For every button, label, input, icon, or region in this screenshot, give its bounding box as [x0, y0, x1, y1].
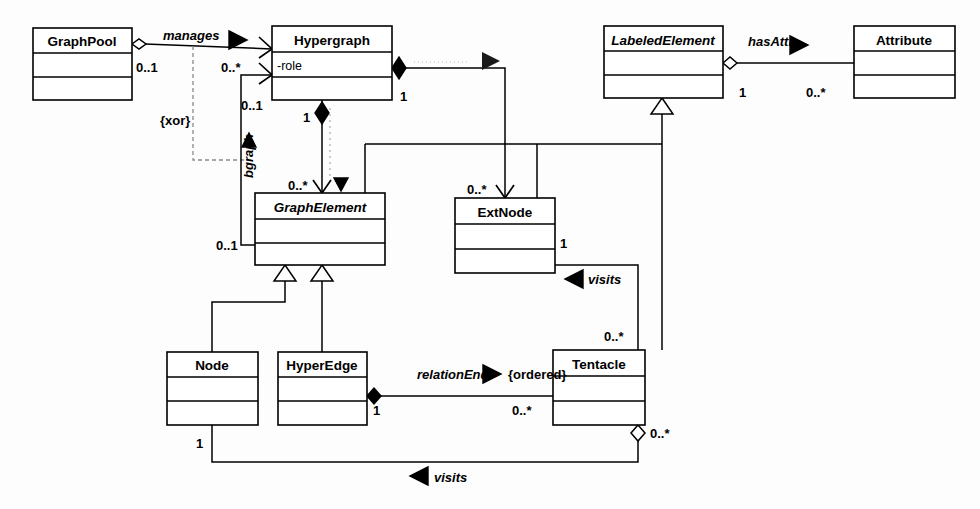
assoc-label-visits-node: visits [434, 470, 467, 485]
association-hypergraph-graphelement[interactable] [313, 100, 348, 193]
open-arrow-icon [259, 37, 272, 58]
class-name-hyperedge: HyperEdge [286, 358, 358, 373]
class-name-node: Node [195, 358, 229, 373]
class-name-hypergraph: Hypergraph [294, 33, 370, 48]
class-attribute-role: -role [277, 59, 302, 73]
constraint-label-ordered: {ordered} [508, 367, 567, 382]
class-name-graphelement: GraphElement [274, 200, 367, 215]
manages-line [145, 44, 272, 49]
constraint-label-xor: {xor} [160, 113, 190, 128]
mult-hyperedge-relationend: 1 [373, 403, 380, 418]
mult-hypergraph-bgraph: 0..1 [241, 98, 263, 113]
assoc-label-visits-extnode: visits [588, 272, 621, 287]
navigation-triangle-icon [565, 270, 583, 288]
generalization-to-graphelement[interactable] [212, 265, 333, 352]
class-box-graphpool[interactable]: GraphPool [33, 28, 132, 100]
mult-hypergraph-ge: 1 [303, 110, 310, 125]
class-name-labeledelement: LabeledElement [611, 33, 715, 48]
aggregation-diamond-icon [631, 425, 645, 441]
class-box-graphelement[interactable]: GraphElement [255, 193, 385, 265]
class-box-hyperedge[interactable]: HyperEdge [278, 352, 367, 425]
class-name-tentacle: Tentacle [572, 357, 626, 372]
generalization-triangle-icon [274, 265, 296, 281]
assoc-label-manages: manages [163, 28, 219, 43]
mult-graphpool-manages: 0..1 [136, 60, 158, 75]
association-hypergraph-extnode[interactable] [392, 52, 514, 198]
class-box-extnode[interactable]: ExtNode [455, 198, 555, 273]
aggregation-diamond-icon [132, 39, 146, 49]
mult-extnode-visits: 1 [560, 236, 567, 251]
assoc-label-bgraph: bgraph [241, 134, 256, 178]
association-node-visits-tentacle[interactable] [212, 425, 645, 485]
assoc-label-hasattr: hasAttr [748, 34, 794, 49]
class-name-extnode: ExtNode [478, 205, 533, 220]
generalization-triangle-icon [311, 265, 333, 281]
class-name-graphpool: GraphPool [47, 34, 116, 49]
node-visits-line [212, 425, 638, 462]
assoc-label-relationend: relationEnd [417, 367, 490, 382]
navigation-triangle-icon [410, 467, 428, 485]
mult-labeledelement-hasattr: 1 [739, 85, 746, 100]
mult-attribute-hasattr: 0..* [806, 85, 826, 100]
class-box-labeledelement[interactable]: LabeledElement [604, 26, 723, 98]
mult-hypergraph-manages: 0..* [221, 60, 241, 75]
filled-triangle-icon [334, 178, 348, 191]
composition-diamond-icon [392, 57, 406, 79]
class-box-tentacle[interactable]: Tentacle [553, 350, 645, 425]
mult-graphelement-hg: 0..* [288, 178, 308, 193]
mult-hypergraph-en: 1 [400, 89, 407, 104]
gen-node-line [212, 279, 285, 352]
uml-diagram-svg: GraphPool Hypergraph -role LabeledElemen… [0, 0, 980, 509]
mult-tentacle-visits-extnode: 0..* [604, 329, 624, 344]
navigation-triangle-icon [229, 31, 247, 49]
class-box-hypergraph[interactable]: Hypergraph -role [272, 26, 392, 100]
aggregation-diamond-icon [723, 57, 737, 69]
composition-diamond-icon [367, 388, 381, 404]
class-name-attribute: Attribute [876, 33, 933, 48]
class-box-node[interactable]: Node [167, 352, 258, 425]
mult-tentacle-relationend: 0..* [512, 403, 532, 418]
mult-graphelement-bgraph: 0..1 [216, 238, 238, 253]
composition-diamond-icon [315, 102, 329, 124]
mult-node-visits: 1 [196, 436, 203, 451]
class-box-attribute[interactable]: Attribute [854, 26, 955, 98]
mult-extnode-hg: 0..* [467, 182, 487, 197]
mult-tentacle-visits-node: 0..* [650, 426, 670, 441]
open-arrow-icon [259, 63, 272, 84]
uml-diagram-canvas: GraphPool Hypergraph -role LabeledElemen… [0, 0, 980, 509]
hg-en-line [396, 68, 505, 198]
generalization-triangle-icon [651, 98, 673, 114]
